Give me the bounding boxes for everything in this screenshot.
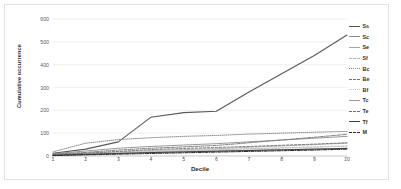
series-lines bbox=[53, 35, 347, 156]
legend-swatch-Te-icon bbox=[349, 109, 360, 113]
legend-label-Be: Be bbox=[363, 76, 370, 82]
x-axis-title: Decile bbox=[55, 165, 345, 172]
gridlines bbox=[53, 19, 347, 156]
legend-label-Bf: Bf bbox=[363, 87, 369, 93]
legend: SsScSeSfBcBeBfTcTeTfM bbox=[349, 21, 389, 138]
x-tick-label: 9 bbox=[307, 156, 321, 162]
legend-item-M[interactable]: M bbox=[349, 127, 389, 138]
legend-swatch-Ss-icon bbox=[349, 24, 360, 28]
legend-item-Be[interactable]: Be bbox=[349, 74, 389, 85]
x-tick-label: 6 bbox=[209, 156, 223, 162]
legend-item-Sf[interactable]: Sf bbox=[349, 53, 389, 64]
x-tick-label: 4 bbox=[144, 156, 158, 162]
legend-swatch-Bf-icon bbox=[349, 88, 360, 92]
x-tick-label: 7 bbox=[242, 156, 256, 162]
legend-item-Tc[interactable]: Tc bbox=[349, 95, 389, 106]
y-tick-label: 400 bbox=[27, 62, 49, 68]
x-tick-label: 5 bbox=[177, 156, 191, 162]
y-tick-label: 100 bbox=[27, 130, 49, 136]
legend-item-Bc[interactable]: Bc bbox=[349, 63, 389, 74]
legend-item-Tf[interactable]: Tf bbox=[349, 116, 389, 127]
legend-swatch-M-icon bbox=[349, 130, 360, 134]
legend-swatch-Be-icon bbox=[349, 77, 360, 81]
y-tick-label: 600 bbox=[27, 16, 49, 22]
y-tick-label: 500 bbox=[27, 39, 49, 45]
x-tick-label: 1 bbox=[46, 156, 60, 162]
legend-label-Tf: Tf bbox=[363, 119, 368, 125]
line-chart-svg bbox=[5, 5, 390, 181]
legend-swatch-Sc-icon bbox=[349, 35, 360, 39]
y-tick-label: 300 bbox=[27, 85, 49, 91]
legend-label-Se: Se bbox=[363, 44, 370, 50]
legend-label-Te: Te bbox=[363, 108, 369, 114]
y-axis-title: Cumulative occurrence bbox=[16, 16, 22, 136]
legend-swatch-Bc-icon bbox=[349, 67, 360, 71]
legend-swatch-Tc-icon bbox=[349, 98, 360, 102]
legend-item-Se[interactable]: Se bbox=[349, 42, 389, 53]
legend-label-Sc: Sc bbox=[363, 34, 370, 40]
legend-label-Ss: Ss bbox=[363, 23, 370, 29]
legend-label-M: M bbox=[363, 129, 368, 135]
plot-area: Cumulative occurrence Decile 01002003004… bbox=[5, 5, 390, 181]
legend-label-Bc: Bc bbox=[363, 66, 370, 72]
legend-swatch-Se-icon bbox=[349, 45, 360, 49]
legend-item-Ss[interactable]: Ss bbox=[349, 21, 389, 32]
axis-lines bbox=[53, 156, 347, 159]
legend-swatch-Sf-icon bbox=[349, 56, 360, 60]
x-tick-label: 8 bbox=[275, 156, 289, 162]
legend-swatch-Tf-icon bbox=[349, 120, 360, 124]
y-tick-label: 200 bbox=[27, 107, 49, 113]
x-tick-label: 2 bbox=[79, 156, 93, 162]
x-tick-label: 10 bbox=[340, 156, 354, 162]
legend-label-Sf: Sf bbox=[363, 55, 368, 61]
x-tick-label: 3 bbox=[111, 156, 125, 162]
legend-label-Tc: Tc bbox=[363, 97, 369, 103]
legend-item-Sc[interactable]: Sc bbox=[349, 32, 389, 43]
legend-item-Bf[interactable]: Bf bbox=[349, 85, 389, 96]
legend-item-Te[interactable]: Te bbox=[349, 106, 389, 117]
chart-container: Cumulative occurrence Decile 01002003004… bbox=[4, 4, 389, 180]
